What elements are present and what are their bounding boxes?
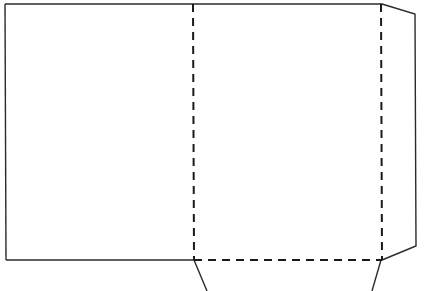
bottom-flap-left-cut-line bbox=[194, 260, 207, 291]
bottom-flap-right-cut-line bbox=[372, 260, 381, 291]
spine-fold-line bbox=[193, 4, 194, 260]
right-flap-cut-line bbox=[382, 4, 416, 260]
folder-template-diagram bbox=[0, 0, 427, 291]
cut-lines bbox=[5, 4, 416, 291]
fold-lines bbox=[193, 4, 382, 260]
dieline-svg bbox=[0, 0, 427, 291]
right-flap-fold-line bbox=[381, 4, 382, 260]
left-edge-cut-line bbox=[5, 4, 6, 260]
